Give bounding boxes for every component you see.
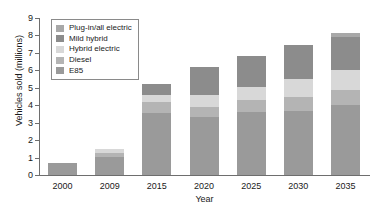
bar-segment[interactable]	[237, 87, 266, 100]
stacked-bar[interactable]	[48, 163, 77, 175]
stacked-bar[interactable]	[331, 33, 360, 175]
stacked-bar[interactable]	[284, 45, 313, 175]
stacked-bar[interactable]	[190, 67, 219, 175]
y-tick-mark	[35, 175, 39, 176]
y-axis-title: Vehicles sold (millions)	[10, 0, 28, 185]
bar-group: 2020	[190, 18, 219, 175]
bar-segment[interactable]	[142, 95, 171, 102]
y-tick-label: 4	[28, 101, 33, 110]
bar-segment[interactable]	[237, 56, 266, 87]
x-axis-title: Year	[39, 194, 370, 204]
y-tick-label: 6	[28, 66, 33, 75]
x-tick-label: 2009	[95, 181, 124, 191]
y-tick-label: 5	[28, 83, 33, 92]
bar-segment[interactable]	[284, 45, 313, 79]
y-tick-mark	[35, 105, 39, 106]
bar-segment[interactable]	[142, 84, 171, 94]
stacked-bar[interactable]	[95, 149, 124, 175]
bar-segment[interactable]	[331, 90, 360, 105]
legend-color-swatch	[56, 67, 64, 74]
bar-segment[interactable]	[237, 100, 266, 112]
legend-item[interactable]: Plug-in/all electric	[56, 23, 132, 34]
legend-item[interactable]: Hybrid electric	[56, 44, 132, 55]
y-tick-mark	[35, 18, 39, 19]
bar-group: 2015	[142, 18, 171, 175]
bar-segment[interactable]	[284, 97, 313, 112]
bar-segment[interactable]	[284, 79, 313, 96]
bar-segment[interactable]	[331, 70, 360, 91]
x-tick-label: 2020	[190, 181, 219, 191]
bar-group: 2035	[331, 18, 360, 175]
x-tick-label: 2015	[142, 181, 171, 191]
bar-segment[interactable]	[190, 107, 219, 117]
x-tick-label: 2030	[284, 181, 313, 191]
bar-segment[interactable]	[190, 117, 219, 175]
legend-item[interactable]: E85	[56, 65, 132, 76]
x-tick-label: 2000	[48, 181, 77, 191]
bar-segment[interactable]	[95, 157, 124, 175]
y-tick-mark	[35, 140, 39, 141]
y-tick-mark	[35, 70, 39, 71]
stacked-bar[interactable]	[142, 84, 171, 175]
chart-legend: Plug-in/all electricMild hybridHybrid el…	[51, 19, 139, 80]
bar-segment[interactable]	[331, 105, 360, 175]
y-tick-label: 2	[28, 136, 33, 145]
legend-item-label: Hybrid electric	[69, 45, 120, 53]
bar-segment[interactable]	[331, 37, 360, 69]
y-tick-label: 7	[28, 48, 33, 57]
legend-color-swatch	[56, 25, 64, 32]
legend-color-swatch	[56, 46, 64, 53]
stacked-bar[interactable]	[237, 56, 266, 175]
y-tick-label: 0	[28, 171, 33, 180]
x-tick-label: 2025	[237, 181, 266, 191]
chart-figure: Vehicles sold (millions) 0123456789 2000…	[0, 0, 379, 209]
legend-color-swatch	[56, 57, 64, 64]
y-tick-label: 8	[28, 31, 33, 40]
x-axis-line	[39, 175, 370, 176]
y-tick-mark	[35, 123, 39, 124]
bar-segment[interactable]	[142, 102, 171, 113]
bar-segment[interactable]	[48, 163, 77, 175]
y-tick-mark	[35, 53, 39, 54]
bar-group: 2030	[284, 18, 313, 175]
legend-item-label: Mild hybrid	[69, 35, 108, 43]
legend-item-label: Diesel	[69, 56, 91, 64]
y-tick-label: 3	[28, 118, 33, 127]
y-tick-label: 1	[28, 153, 33, 162]
bar-segment[interactable]	[284, 111, 313, 175]
legend-item-label: Plug-in/all electric	[69, 24, 132, 32]
bar-segment[interactable]	[190, 67, 219, 95]
x-tick-label: 2035	[331, 181, 360, 191]
bar-group: 2025	[237, 18, 266, 175]
bar-segment[interactable]	[237, 112, 266, 175]
legend-item[interactable]: Diesel	[56, 55, 132, 66]
y-tick-label: 9	[28, 14, 33, 23]
legend-item-label: E85	[69, 67, 83, 75]
y-tick-mark	[35, 35, 39, 36]
bar-segment[interactable]	[190, 95, 219, 107]
y-tick-mark	[35, 88, 39, 89]
y-tick-mark	[35, 158, 39, 159]
bar-segment[interactable]	[142, 113, 171, 175]
legend-item[interactable]: Mild hybrid	[56, 34, 132, 45]
legend-color-swatch	[56, 35, 64, 42]
